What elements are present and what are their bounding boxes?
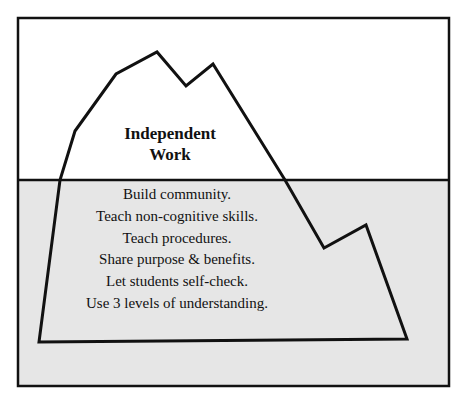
- below-water-item: Teach procedures.: [123, 230, 232, 246]
- below-water-item: Teach non-cognitive skills.: [96, 208, 258, 224]
- below-water-item: Share purpose & benefits.: [99, 251, 255, 267]
- below-water-item: Let students self-check.: [106, 273, 248, 289]
- below-water-item: Use 3 levels of understanding.: [86, 295, 268, 311]
- iceberg-diagram: Independent Work Build community. Teach …: [0, 0, 465, 398]
- iceberg-tip-label-line-2: Work: [149, 145, 191, 164]
- iceberg-tip-label-line-1: Independent: [124, 124, 216, 143]
- below-water-item: Build community.: [123, 186, 231, 202]
